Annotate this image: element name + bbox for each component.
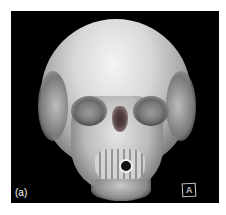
- skull-temporal-left: [38, 71, 68, 141]
- orbit-right: [133, 96, 169, 126]
- skull-temporal-right: [166, 71, 196, 141]
- nasal-aperture: [112, 106, 128, 132]
- oral-ring-object: [119, 159, 133, 173]
- orbit-left: [71, 96, 107, 126]
- orientation-marker: A: [182, 183, 197, 198]
- mandible: [91, 179, 151, 201]
- panel-label: (a): [15, 187, 27, 199]
- ct-render-panel: (a) A: [11, 11, 219, 203]
